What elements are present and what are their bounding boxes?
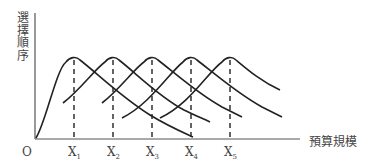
x-tick-label-2: X2 xyxy=(107,145,120,161)
curve-x2 xyxy=(63,58,210,122)
x-axis-label: 預算規模 xyxy=(309,132,357,149)
x-tick-label-1: X1 xyxy=(68,145,81,161)
x-tick-label-3: X3 xyxy=(146,145,159,161)
y-axis-label: 選擇順序 xyxy=(16,12,30,62)
curve-x3 xyxy=(102,58,242,117)
origin-label: O xyxy=(22,145,32,159)
curve-x4 xyxy=(122,58,282,118)
x-tick-label-5: X5 xyxy=(224,145,237,161)
x-tick-label-4: X4 xyxy=(185,145,198,161)
